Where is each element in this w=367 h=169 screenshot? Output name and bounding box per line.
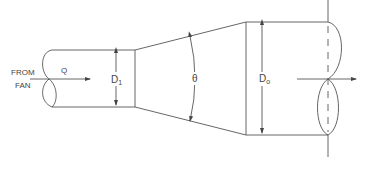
transition-top-edge bbox=[135, 22, 246, 50]
inlet-upper-break-curve bbox=[43, 50, 52, 79]
transition-bottom-edge bbox=[135, 107, 246, 135]
outlet-upper-break-curve bbox=[328, 22, 342, 79]
inlet-lower-break-ellipse bbox=[43, 79, 57, 107]
source-label-line1: FROM bbox=[11, 68, 35, 77]
flow-rate-label: Q bbox=[61, 66, 67, 75]
source-label-line2: FAN bbox=[15, 81, 31, 90]
duct-diffuser-diagram: FROM FAN Q D1 θ Do bbox=[0, 0, 367, 169]
angle-label: θ bbox=[192, 73, 198, 84]
